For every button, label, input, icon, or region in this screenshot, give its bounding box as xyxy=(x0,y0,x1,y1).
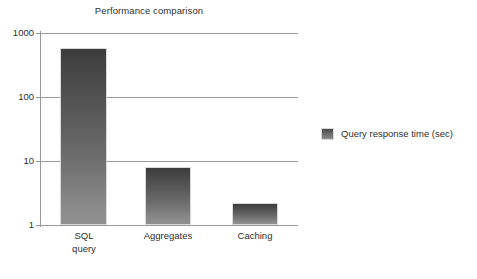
bar-aggregates[interactable] xyxy=(145,167,191,225)
chart-title: Performance comparison xyxy=(0,5,298,17)
y-tick-label-1000: 1000 xyxy=(0,28,34,38)
x-label-caching: Caching xyxy=(217,230,293,243)
y-tick-label-1: 1 xyxy=(0,220,34,230)
chart-legend: Query response time (sec) xyxy=(321,128,453,140)
y-tick-label-100: 100 xyxy=(0,92,34,102)
legend-label-query-response-time: Query response time (sec) xyxy=(341,128,453,140)
chart-container: Performance comparison 1000 100 10 1 SQL… xyxy=(0,0,477,279)
legend-swatch-icon xyxy=(321,128,334,140)
x-axis-category-labels: SQL query Aggregates Caching xyxy=(40,230,298,276)
plot-area xyxy=(40,33,298,225)
bar-sql-query[interactable] xyxy=(60,48,107,225)
y-axis-tick-labels: 1000 100 10 1 xyxy=(0,33,34,225)
y-tick-label-10: 10 xyxy=(0,156,34,166)
x-label-sql-query: SQL query xyxy=(46,230,122,255)
gridline-1 xyxy=(40,225,298,226)
x-label-aggregates: Aggregates xyxy=(130,230,206,243)
bar-caching[interactable] xyxy=(232,203,278,225)
gridline-1000 xyxy=(40,33,298,34)
